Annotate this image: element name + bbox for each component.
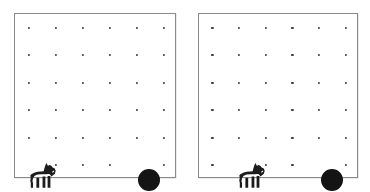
grid-dot (135, 54, 137, 56)
grid-dot (162, 82, 164, 84)
grid-dot (238, 137, 240, 139)
grid-dot (265, 82, 267, 84)
grid-dot (54, 54, 56, 56)
grid-dot (265, 137, 267, 139)
grid-dot (135, 109, 137, 111)
grid-dot (291, 137, 293, 139)
ball-target[interactable] (138, 169, 160, 191)
grid-dot (81, 164, 83, 166)
grid-dot (108, 137, 110, 139)
grid-dot (135, 27, 137, 29)
grid-dot (318, 137, 320, 139)
grid-dot (27, 137, 29, 139)
grid-dot (318, 82, 320, 84)
grid-dot (238, 54, 240, 56)
grid-dot (211, 109, 213, 111)
grid-dot (162, 54, 164, 56)
dot-grid (199, 14, 357, 177)
grid-dot (135, 82, 137, 84)
grid-dot (81, 82, 83, 84)
grid-dot (265, 109, 267, 111)
grid-dot (162, 109, 164, 111)
grid-dot (162, 164, 164, 166)
grid-dot (162, 27, 164, 29)
grid-dot (108, 164, 110, 166)
grid-dot (318, 27, 320, 29)
grid-dot (211, 54, 213, 56)
grid-dot (345, 137, 347, 139)
grid-dot (108, 82, 110, 84)
grid-dot (345, 164, 347, 166)
grid-dot (27, 27, 29, 29)
grid-dot (291, 109, 293, 111)
grid-dot (238, 27, 240, 29)
grid-dot (265, 54, 267, 56)
grid-dot (291, 54, 293, 56)
panel-right[interactable] (198, 13, 358, 178)
grid-dot (345, 109, 347, 111)
scene-root (0, 0, 370, 192)
grid-dot (54, 82, 56, 84)
grid-dot (81, 27, 83, 29)
grid-dot (162, 137, 164, 139)
panel-left[interactable] (14, 13, 176, 178)
grid-dot (54, 109, 56, 111)
dog-agent[interactable] (237, 162, 265, 190)
grid-dot (135, 137, 137, 139)
grid-dot (108, 27, 110, 29)
grid-dot (54, 27, 56, 29)
dog-agent[interactable] (28, 162, 56, 190)
grid-dot (318, 109, 320, 111)
grid-dot (238, 109, 240, 111)
grid-dot (291, 27, 293, 29)
grid-dot (81, 54, 83, 56)
grid-dot (108, 54, 110, 56)
grid-dot (81, 137, 83, 139)
grid-dot (108, 109, 110, 111)
ball-target[interactable] (321, 169, 343, 191)
grid-dot (211, 82, 213, 84)
grid-dot (27, 54, 29, 56)
dot-grid (15, 14, 175, 177)
grid-dot (27, 109, 29, 111)
grid-dot (54, 137, 56, 139)
grid-dot (345, 27, 347, 29)
grid-dot (265, 27, 267, 29)
grid-dot (345, 54, 347, 56)
grid-dot (211, 164, 213, 166)
grid-dot (211, 27, 213, 29)
grid-dot (27, 82, 29, 84)
grid-dot (345, 82, 347, 84)
grid-dot (238, 82, 240, 84)
grid-dot (291, 164, 293, 166)
grid-dot (318, 54, 320, 56)
grid-dot (211, 137, 213, 139)
grid-dot (291, 82, 293, 84)
grid-dot (81, 109, 83, 111)
